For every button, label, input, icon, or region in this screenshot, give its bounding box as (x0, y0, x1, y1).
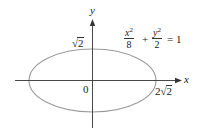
equals-one: = 1 (167, 34, 181, 45)
x-axis-arrow-icon (175, 78, 182, 83)
origin-label: 0 (83, 84, 89, 95)
y-intercept-label: √2 (72, 37, 84, 49)
denominator: 2 (152, 39, 162, 50)
numerator: x2 (124, 27, 134, 39)
numerator: y2 (152, 27, 162, 39)
denominator: 8 (124, 39, 134, 50)
x-axis-label: x (184, 74, 189, 85)
radicand: 2 (166, 85, 173, 97)
ellipse-diagram (0, 0, 199, 134)
y-axis-arrow-icon (90, 19, 95, 26)
fraction-x-term: x2 8 (124, 27, 134, 50)
y-axis-label: y (90, 5, 95, 16)
plus-sign: + (142, 34, 148, 45)
radicand: 2 (77, 37, 84, 49)
x-intercept-label: 2√2 (155, 85, 172, 97)
fraction-y-term: y2 2 (152, 27, 162, 50)
